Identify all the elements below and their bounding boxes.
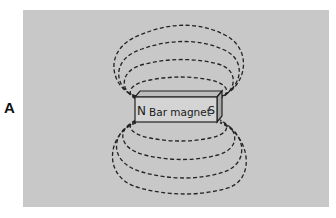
field-line-lower-4 (112, 123, 246, 194)
field-line-upper-1 (114, 25, 244, 96)
south-pole-label: S (208, 104, 215, 117)
field-line-lower-2 (123, 121, 235, 160)
bar-magnet: N Bar magnet S (135, 91, 222, 122)
field-line-upper-2 (119, 42, 240, 98)
magnet-name-label: Bar magnet (149, 106, 211, 118)
magnetic-field-diagram: N Bar magnet S (0, 0, 336, 218)
field-line-lower-1 (130, 120, 226, 141)
north-pole-label: N (137, 104, 146, 118)
field-line-lower-3 (117, 122, 242, 178)
